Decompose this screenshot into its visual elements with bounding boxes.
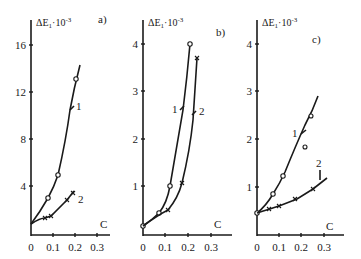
x-axis-label: C: [326, 220, 333, 232]
y-tick-label: 12: [15, 86, 26, 98]
panel-c: 4 3 2 1 0 0.1 0.2 0.3 C ΔE1·10-3 c) 1 2: [247, 16, 345, 253]
y-tick-label: 2: [247, 133, 253, 145]
x-axis-label: C: [100, 218, 107, 230]
y-axis-label: ΔE1·10-3: [36, 16, 72, 30]
x-tick-label: 0.3: [317, 241, 331, 253]
x-tick-label: 0.1: [272, 241, 286, 253]
series-1-label: 1: [292, 127, 298, 139]
x-tick-label: 0.3: [204, 241, 218, 253]
panel-a: 16 12 8 4 0 0.1 0.2 0.3 C ΔE1·10-3 a) 1 …: [15, 13, 110, 253]
series-2-line: [31, 191, 74, 224]
series-1-line: [31, 65, 80, 224]
y-tick-label: 16: [15, 39, 27, 51]
y-tick-label: 2: [133, 133, 139, 145]
x-tick-label: 0.2: [68, 241, 82, 253]
x-tick-label: 0.1: [46, 241, 60, 253]
y-tick-label: 3: [247, 85, 253, 97]
y-tick-label: 3: [133, 85, 139, 97]
series-1-label: 1: [76, 100, 82, 112]
panel-b: 4 3 2 1 0 0.1 0.2 0.3 C ΔE1·10-3 b) 1 2: [133, 16, 233, 253]
series-2-line: [143, 58, 197, 226]
x-tick-label: 0.1: [158, 241, 172, 253]
y-tick-label: 4: [21, 180, 27, 192]
y-tick-label: 1: [133, 180, 139, 192]
x-axis-label: C: [214, 218, 221, 230]
y-axis-label: ΔE1·10-3: [262, 16, 298, 30]
series-2-label: 2: [316, 157, 322, 169]
x-tick-label: 0: [254, 241, 260, 253]
series-1-label: 1: [172, 103, 178, 115]
x-tick-label: 0.2: [294, 241, 308, 253]
series-2-label: 2: [199, 105, 205, 117]
y-axis-label: ΔE1·10-3: [148, 16, 184, 30]
panel-label: c): [312, 33, 321, 46]
y-tick-label: 4: [133, 38, 139, 50]
x-tick-label: 0.2: [181, 241, 195, 253]
chart-figure: 16 12 8 4 0 0.1 0.2 0.3 C ΔE1·10-3 a) 1 …: [0, 0, 361, 259]
x-tick-label: 0: [28, 241, 34, 253]
panel-label: b): [216, 26, 226, 39]
y-tick-label: 1: [247, 181, 253, 193]
x-tick-label: 0.3: [90, 241, 104, 253]
y-tick-label: 8: [21, 133, 27, 145]
series-2-label: 2: [78, 193, 84, 205]
panel-label: a): [98, 13, 107, 26]
y-tick-label: 4: [247, 38, 253, 50]
x-tick-label: 0: [140, 241, 146, 253]
series-1-line: [257, 96, 318, 213]
series-1-line: [143, 44, 190, 226]
